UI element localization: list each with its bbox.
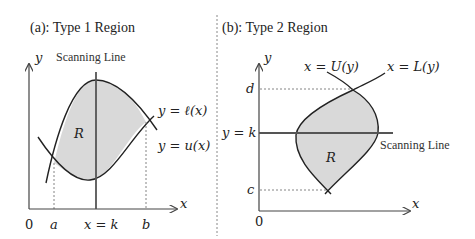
- x-axis-label: x: [412, 196, 420, 211]
- region-label: R: [325, 150, 336, 165]
- lower-curve-label: y = u(x): [157, 138, 210, 153]
- scanning-line-label: Scanning Line: [56, 50, 126, 64]
- panel-type2: (b): Type 2 Region y x 0 Scanning Line x…: [221, 20, 450, 229]
- origin-label: 0: [255, 214, 263, 229]
- scanning-line-label: Scanning Line: [380, 138, 450, 152]
- tick-d: d: [246, 81, 254, 96]
- region-fill: [54, 80, 146, 180]
- panel-title: (a): Type 1 Region: [30, 20, 135, 36]
- tick-b: b: [142, 217, 150, 232]
- tick-c: c: [247, 182, 255, 197]
- y-axis-label: y: [34, 50, 43, 65]
- panel-type1: (a): Type 1 Region y x Scanning Line y =…: [25, 20, 210, 232]
- curve-U-label: x = U(y): [304, 59, 359, 74]
- region-fill: [296, 90, 378, 190]
- x-axis-label: x: [180, 196, 188, 211]
- tick-k: y = k: [221, 125, 257, 140]
- region-label: R: [73, 126, 84, 141]
- diagram-canvas: (a): Type 1 Region y x Scanning Line y =…: [0, 0, 475, 239]
- tick-a: a: [50, 217, 58, 232]
- panel-title: (b): Type 2 Region: [222, 20, 328, 36]
- tick-k: x = k: [84, 217, 118, 232]
- curve-L-label: x = L(y): [387, 59, 440, 74]
- y-axis-label: y: [263, 50, 272, 65]
- origin-label: 0: [25, 217, 33, 232]
- upper-curve-label: y = ℓ(x): [157, 103, 207, 118]
